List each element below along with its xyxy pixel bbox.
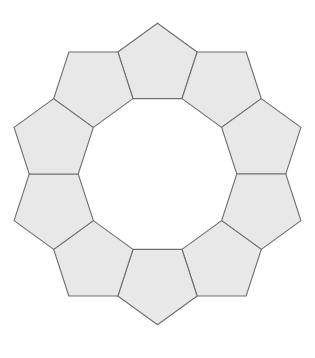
pentagon-ring-diagram bbox=[0, 0, 315, 358]
pentagon-ring bbox=[14, 23, 301, 325]
